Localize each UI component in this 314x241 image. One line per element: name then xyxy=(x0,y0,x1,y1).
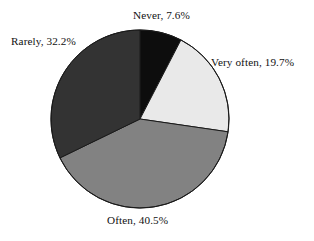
pie-label-often: Often, 40.5% xyxy=(107,214,168,226)
pie-label-never: Never, 7.6% xyxy=(133,9,190,21)
pie-slice-group xyxy=(51,30,229,208)
pie-label-rarely: Rarely, 32.2% xyxy=(11,35,76,47)
pie-chart-figure: Never, 7.6% Very often, 19.7% Often, 40.… xyxy=(0,0,314,241)
pie-label-very-often: Very often, 19.7% xyxy=(211,56,294,68)
